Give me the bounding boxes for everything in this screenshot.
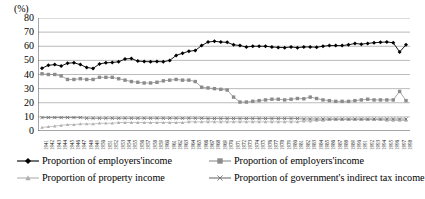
- chart-legend: Proportion of employers'income Proportio…: [17, 152, 413, 192]
- x-axis-tick-label: 1947: [82, 140, 87, 150]
- legend-label: Proportion of employers'income: [42, 155, 172, 167]
- x-axis-tick-label: 1952: [114, 140, 119, 150]
- x-axis-tick-label: 1942: [50, 140, 55, 150]
- x-axis-tick-label: 1991: [363, 140, 368, 150]
- x-axis-tick-label: 1958: [153, 140, 158, 150]
- triangle-marker-icon: [17, 172, 39, 184]
- x-axis-tick-label: 1950: [101, 140, 106, 150]
- y-axis-tick-label: 40: [12, 70, 34, 80]
- data-series: [40, 39, 408, 70]
- y-axis-tick-label: 10: [12, 112, 34, 122]
- x-axis-tick-label: 1960: [165, 140, 170, 150]
- x-axis-tick-labels: 1941194219431944194519461947194819491950…: [38, 131, 410, 153]
- legend-item-employers-income-grey[interactable]: Proportion of employers'income: [209, 155, 409, 167]
- legend-label: Proportion of property income: [42, 172, 165, 184]
- x-axis-tick-label: 1971: [236, 140, 241, 150]
- y-axis-tick-label: 50: [12, 55, 34, 65]
- legend-row-2: Proportion of property income Proportion…: [17, 169, 413, 186]
- x-axis-tick-label: 1978: [280, 140, 285, 150]
- x-axis-tick-label: 1970: [229, 140, 234, 150]
- x-axis-tick-label: 1988: [344, 140, 349, 150]
- x-axis-tick-label: 1996: [395, 140, 400, 150]
- data-series: [40, 72, 407, 104]
- diamond-marker-icon: [17, 155, 39, 167]
- cross-marker-icon: [209, 172, 231, 184]
- legend-item-property-income[interactable]: Proportion of property income: [17, 172, 209, 184]
- x-axis-tick-label: 1944: [63, 140, 68, 150]
- y-axis-tick-label: 20: [12, 98, 34, 108]
- legend-label: Proportion of employers'income: [234, 155, 364, 167]
- y-axis-tick-label: 30: [12, 84, 34, 94]
- x-axis-tick-label: 1983: [312, 140, 317, 150]
- x-axis-tick-label: 1976: [268, 140, 273, 150]
- data-series-layer: [40, 39, 408, 129]
- y-axis-tick-labels: 01020304050607080: [10, 18, 34, 131]
- legend-item-employers-income-black[interactable]: Proportion of employers'income: [17, 155, 209, 167]
- y-axis-tick-label: 70: [12, 27, 34, 37]
- legend-row-1: Proportion of employers'income Proportio…: [17, 152, 413, 169]
- x-axis-tick-label: 1994: [382, 140, 387, 150]
- x-axis-tick-label: 1957: [146, 140, 151, 150]
- x-axis-tick-label: 1975: [261, 140, 266, 150]
- square-marker-icon: [209, 155, 231, 167]
- legend-label: Proportion of government's indirect tax …: [234, 172, 425, 184]
- x-axis-tick-label: 1945: [70, 140, 75, 150]
- legend-item-government-indirect-tax-income[interactable]: Proportion of government's indirect tax …: [209, 172, 409, 184]
- x-axis-tick-label: 1998: [408, 140, 413, 150]
- plot-area: [38, 18, 410, 131]
- y-axis-tick-label: 80: [12, 13, 34, 23]
- x-axis-tick-label: 1986: [331, 140, 336, 150]
- x-axis-tick-label: 1963: [184, 140, 189, 150]
- x-axis-tick-label: 1973: [248, 140, 253, 150]
- x-axis-tick-label: 1989: [351, 140, 356, 150]
- x-axis-tick-label: 1965: [197, 140, 202, 150]
- y-axis-tick-label: 0: [12, 126, 34, 136]
- x-axis-tick-label: 1981: [299, 140, 304, 150]
- x-axis-tick-label: 1968: [216, 140, 221, 150]
- chart-canvas: [38, 18, 410, 131]
- data-series: [40, 118, 407, 129]
- x-axis-tick-label: 1955: [133, 140, 138, 150]
- y-axis-tick-label: 60: [12, 41, 34, 51]
